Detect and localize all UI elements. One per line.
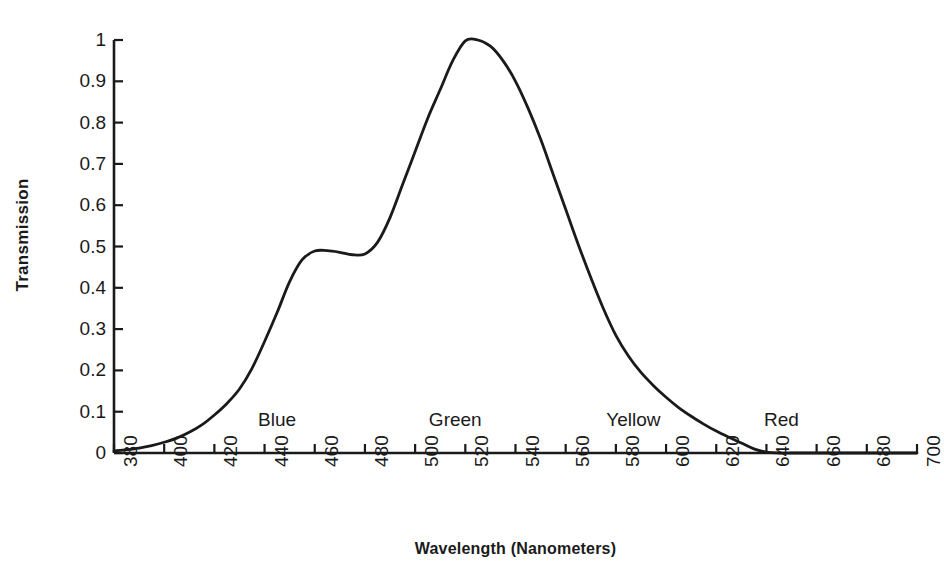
x-tick-label: 520 bbox=[472, 435, 491, 467]
x-tick-label: 680 bbox=[874, 435, 893, 467]
band-label-blue: Blue bbox=[217, 410, 337, 429]
x-tick-label: 580 bbox=[623, 435, 642, 467]
x-tick-label: 400 bbox=[171, 435, 190, 467]
x-tick-label: 700 bbox=[924, 435, 943, 467]
x-tick-label: 560 bbox=[573, 435, 592, 467]
x-tick-label: 420 bbox=[221, 435, 240, 467]
x-tick-label: 600 bbox=[673, 435, 692, 467]
band-label-red: Red bbox=[721, 410, 841, 429]
x-tick-label: 660 bbox=[824, 435, 843, 467]
x-axis-tick-labels: 3804004204404604805005205405605806006206… bbox=[0, 0, 944, 572]
x-tick-label: 380 bbox=[121, 435, 140, 467]
x-tick-label: 640 bbox=[773, 435, 792, 467]
x-tick-label: 440 bbox=[272, 435, 291, 467]
band-label-yellow: Yellow bbox=[573, 410, 693, 429]
transmission-spectrum-chart: Transmission 00.10.20.30.40.50.60.70.80.… bbox=[0, 0, 944, 572]
x-tick-label: 480 bbox=[372, 435, 391, 467]
x-tick-label: 540 bbox=[523, 435, 542, 467]
x-axis-title: Wavelength (Nanometers) bbox=[114, 540, 917, 558]
x-tick-label: 460 bbox=[322, 435, 341, 467]
x-tick-label: 500 bbox=[422, 435, 441, 467]
x-tick-label: 620 bbox=[723, 435, 742, 467]
band-label-green: Green bbox=[395, 410, 515, 429]
